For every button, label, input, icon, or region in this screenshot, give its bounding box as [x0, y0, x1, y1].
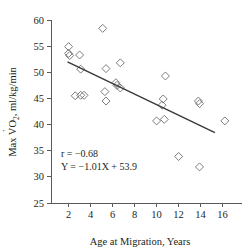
correlation-annotation: r = −0.68	[61, 148, 98, 159]
y-tick-label: 55	[34, 41, 45, 52]
x-tick-label: 16	[217, 209, 228, 220]
equation-annotation: Y = −1.01X + 53.9	[61, 161, 137, 172]
chart-canvas: 2530354045505560 246810121416 r = −0.68 …	[0, 0, 248, 251]
y-tick-label: 40	[34, 119, 45, 130]
x-tick-label: 2	[66, 209, 71, 220]
x-axis-title: Age at Migration, Years	[90, 236, 191, 247]
x-tick-label: 6	[110, 209, 115, 220]
y-tick-label: 50	[34, 67, 45, 78]
x-tick-label: 14	[195, 209, 206, 220]
y-tick-label: 35	[34, 145, 45, 156]
scatter-plot-figure: 2530354045505560 246810121416 r = −0.68 …	[0, 0, 248, 251]
y-tick-label: 30	[34, 171, 45, 182]
x-tick-label: 4	[88, 209, 94, 220]
y-axis-title-suffix: , ml/kg/min	[7, 66, 18, 116]
x-tick-label: 10	[151, 209, 162, 220]
y-tick-label: 45	[34, 93, 45, 104]
y-tick-label: 60	[34, 15, 45, 26]
x-tick-label: 12	[173, 209, 184, 220]
y-tick-label: 25	[34, 198, 45, 209]
x-tick-label: 8	[132, 209, 137, 220]
